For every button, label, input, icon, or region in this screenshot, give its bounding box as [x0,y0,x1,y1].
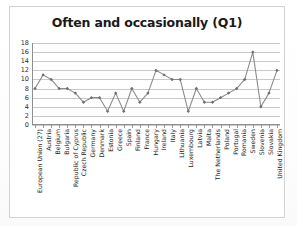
data-point-marker [187,110,190,113]
data-point-marker [275,69,278,72]
x-category-label: Spain [126,129,132,146]
y-tick-label-16: 16 [21,49,29,56]
x-tick [245,125,246,128]
x-category-label: United Kingdom [277,129,283,179]
x-tick [51,125,52,128]
x-category-label: Latvia [197,129,203,148]
x-tick [83,125,84,128]
x-category-label: Finland [135,129,141,151]
x-tick [108,125,109,128]
x-category-label: France [144,129,150,150]
x-category-label: Poland [224,129,230,150]
x-tick [75,125,76,128]
x-category-label: Estonia [108,129,114,152]
x-axis-category-labels: European Union (27)AustriaBelgiumBulgari… [32,129,280,215]
x-tick [59,125,60,128]
x-category-label: Germany [90,129,96,157]
x-category-label: Austria [46,129,52,151]
x-category-label: Ireland [161,129,167,150]
plot-area [32,43,280,125]
x-tick [140,125,141,128]
x-tick [100,125,101,128]
x-category-label: Slovenia [259,129,265,155]
x-tick [35,125,36,128]
x-category-label: Belgium [55,129,61,154]
data-point-marker [179,78,182,81]
x-category-label: Romania [241,129,247,156]
x-tick [67,125,68,128]
x-tick [43,125,44,128]
x-tick [91,125,92,128]
y-tick-label-18: 18 [21,40,29,47]
y-tick-label-4: 4 [25,104,29,111]
x-tick [124,125,125,128]
x-tick [204,125,205,128]
x-category-label: Malta [206,129,212,146]
x-tick [132,125,133,128]
x-tick [253,125,254,128]
x-category-label: Czech Republic [81,129,87,176]
chart-title: Often and occasionally (Q1) [10,15,284,30]
x-tick [148,125,149,128]
x-tick [188,125,189,128]
x-tick [116,125,117,128]
line-series [32,43,280,125]
x-tick [229,125,230,128]
x-category-label: Portugal [233,129,239,155]
y-tick-label-6: 6 [25,94,29,101]
x-category-label: Slovakia [268,129,274,155]
x-tick [237,125,238,128]
y-tick-label-0: 0 [25,122,29,129]
x-category-label: Bulgaria [64,129,70,155]
x-tick [172,125,173,128]
data-point-marker [251,50,254,53]
x-category-label: Italy [170,129,176,142]
x-category-label: European Union (27) [37,129,43,193]
x-tick [212,125,213,128]
x-category-label: Greece [117,129,123,151]
data-point-marker [122,110,125,113]
x-tick [221,125,222,128]
x-category-label: Luxembourg [188,129,194,168]
x-category-label: Republic of Cyprus [73,129,79,187]
x-tick [196,125,197,128]
x-tick [164,125,165,128]
y-tick-label-10: 10 [21,76,29,83]
x-tick [156,125,157,128]
x-category-label: Sweden [250,129,256,153]
x-tick [269,125,270,128]
x-category-label: Lithuania [179,129,185,158]
x-tick [261,125,262,128]
y-tick-label-12: 12 [21,67,29,74]
series-line [35,52,277,111]
x-tick [180,125,181,128]
x-category-label: Hungary [153,129,159,155]
x-category-label: The Netherlands [215,129,221,180]
x-category-label: Denmark [99,129,105,157]
y-axis-tick-labels: 181614121086420 [10,43,30,125]
data-point-marker [114,91,117,94]
y-tick-label-14: 14 [21,58,29,65]
x-tick [277,125,278,128]
y-tick-label-2: 2 [25,113,29,120]
chart-container: Often and occasionally (Q1) 181614121086… [9,6,285,218]
y-tick-label-8: 8 [25,85,29,92]
